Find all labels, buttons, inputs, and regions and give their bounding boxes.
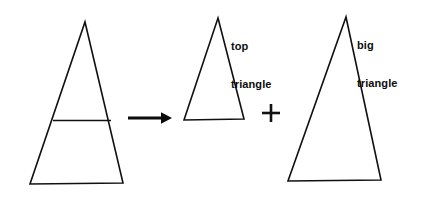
label-big-triangle-line1: big <box>357 39 398 52</box>
label-top-triangle: top triangle <box>231 15 272 116</box>
label-top-triangle-line1: top <box>231 40 272 53</box>
arrow-head-icon <box>161 112 172 124</box>
label-big-triangle-line2: triangle <box>357 77 398 90</box>
composite-triangle-outline <box>30 22 123 184</box>
composite-triangle-group <box>30 22 123 184</box>
label-big-triangle: big triangle <box>357 14 398 115</box>
diagram-canvas: top triangle big triangle <box>0 0 428 200</box>
label-top-triangle-line2: triangle <box>231 78 272 91</box>
transformation-arrow <box>128 112 172 124</box>
